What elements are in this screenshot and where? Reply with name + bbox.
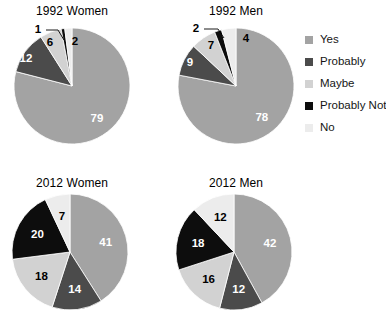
legend-item-no: No xyxy=(305,119,386,137)
legend-item-probably: Probably xyxy=(305,53,386,71)
slice-value-label: 18 xyxy=(192,237,205,249)
pie-panel-2012-women: 2012 Women 411418207 xyxy=(2,176,142,324)
pie-graphic: 4212161812 xyxy=(166,176,306,324)
legend-item-label: Maybe xyxy=(320,78,355,90)
legend-item-maybe: Maybe xyxy=(305,75,386,93)
slice-value-label: 4 xyxy=(243,32,250,44)
legend-item-probably-not: Probably Not xyxy=(305,97,386,115)
slice-value-label: 12 xyxy=(232,283,245,295)
slice-value-label: 79 xyxy=(90,112,103,124)
legend-item-yes: Yes xyxy=(305,31,386,49)
pie-title: 1992 Women xyxy=(2,4,142,18)
slice-value-label: 41 xyxy=(99,236,112,248)
slice-value-label: 9 xyxy=(187,56,193,68)
slice-value-label: 7 xyxy=(208,39,214,51)
slice-value-label: 12 xyxy=(20,52,33,64)
slice-value-label: 20 xyxy=(31,228,44,240)
pie-graphic: 411418207 xyxy=(2,176,142,324)
slice-value-label: 2 xyxy=(72,35,78,47)
pie-title: 1992 Men xyxy=(166,4,306,18)
legend-item-label: No xyxy=(320,122,335,134)
legend-item-label: Yes xyxy=(320,34,339,46)
legend-swatch-icon xyxy=(305,124,313,132)
slice-value-label: 2 xyxy=(193,22,199,34)
slice-value-label: 12 xyxy=(214,211,227,223)
legend-item-label: Probably xyxy=(320,56,365,68)
slice-value-label: 16 xyxy=(202,273,215,285)
legend-swatch-icon xyxy=(305,36,313,44)
pie-title: 2012 Women xyxy=(2,176,142,190)
legend-swatch-icon xyxy=(305,80,313,88)
slice-value-label: 18 xyxy=(35,270,48,282)
slice-value-label: 78 xyxy=(255,111,268,123)
pie-title: 2012 Men xyxy=(166,176,306,190)
pie-panel-1992-women: 1992 Women 7912612 xyxy=(2,4,142,164)
pie-panel-2012-men: 2012 Men 4212161812 xyxy=(166,176,306,324)
pie-graphic: 7912612 xyxy=(2,4,142,164)
pie-graphic: 789724 xyxy=(166,4,306,164)
legend: Yes Probably Maybe Probably Not No xyxy=(305,31,386,141)
slice-value-label: 42 xyxy=(264,237,277,249)
slice-value-label: 1 xyxy=(35,23,42,35)
slice-value-label: 14 xyxy=(68,283,81,295)
legend-swatch-icon xyxy=(305,58,313,66)
legend-item-label: Probably Not xyxy=(320,100,386,112)
legend-swatch-icon xyxy=(305,102,313,110)
pie-panel-1992-men: 1992 Men 789724 xyxy=(166,4,306,164)
slice-value-label: 7 xyxy=(59,210,65,222)
slice-value-label: 6 xyxy=(47,36,53,48)
